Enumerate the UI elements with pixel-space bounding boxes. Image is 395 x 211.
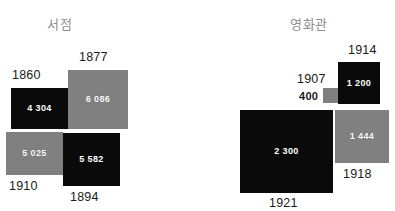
chart-canvas: 서점 1860 4 304 1877 6 086 5 025 1910 5 58…	[0, 0, 395, 211]
year-label-1907: 1907	[297, 73, 326, 86]
year-label-1914: 1914	[348, 44, 377, 57]
year-label-1918: 1918	[343, 168, 372, 181]
square-value-4304: 4 304	[27, 104, 52, 113]
year-label-1877: 1877	[79, 51, 108, 64]
year-label-1910: 1910	[9, 180, 38, 193]
square-value-1444: 1 444	[350, 132, 375, 141]
square-value-2300: 2 300	[274, 147, 299, 156]
square-value-400: 400	[299, 91, 318, 102]
square-cinema-1914: 1 200	[338, 62, 380, 104]
square-value-5582: 5 582	[79, 155, 104, 164]
square-cinema-1918: 1 444	[335, 110, 389, 163]
square-value-5025: 5 025	[22, 149, 47, 158]
square-value-1200: 1 200	[347, 79, 372, 88]
group-title-cinema: 영화관	[290, 14, 328, 33]
square-cinema-1907	[323, 88, 338, 103]
square-value-6086: 6 086	[86, 95, 111, 104]
group-title-bookstore: 서점	[47, 14, 72, 33]
square-cinema-1921: 2 300	[240, 110, 333, 193]
square-bookstore-1860: 4 304	[11, 88, 68, 129]
year-label-1921: 1921	[269, 197, 298, 210]
square-bookstore-1877: 6 086	[68, 70, 128, 129]
square-bookstore-1910: 5 025	[6, 132, 63, 175]
year-label-1860: 1860	[12, 69, 41, 82]
square-bookstore-1894: 5 582	[63, 133, 120, 186]
year-label-1894: 1894	[70, 191, 99, 204]
